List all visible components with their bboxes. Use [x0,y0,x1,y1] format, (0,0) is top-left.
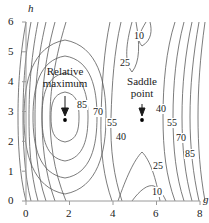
contour-open-left-a [29,22,38,201]
y-tick-label-0: 0 [8,195,14,206]
relative-maximum-label-line1: Relative [47,65,84,77]
saddle-point-annotation: Saddle point [113,76,171,99]
y-axis-ticks [22,22,26,201]
contour-label-55-right: 55 [166,118,178,128]
contour-label-40-right: 40 [155,104,167,114]
contour-plot-canvas [0,0,209,223]
x-tick-label-2: 2 [66,208,72,219]
saddle-point-arrow-head [139,108,145,116]
relative-maximum-arrow-head [62,108,69,116]
contour-label-55-left: 55 [106,118,118,128]
saddle-point-label-line2: point [131,87,154,99]
y-tick-label-2: 2 [8,136,14,147]
y-axis-name: h [28,3,34,14]
x-tick-label-8: 8 [197,208,203,219]
relative-maximum-label-line2: maximum [43,77,88,89]
contour-label-10-bottom: 10 [151,187,163,197]
critical-point-markers [63,118,144,122]
contour-label-10-top: 10 [133,31,145,41]
contour-open-left-b [35,22,46,201]
contour-saddle-left-mid [111,22,122,201]
x-tick-label-6: 6 [153,208,159,219]
contour-label-85-right: 85 [184,149,196,159]
relative-maximum-annotation: Relative maximum [30,66,100,89]
y-tick-label-6: 6 [8,16,14,27]
x-axis-name: g [203,194,209,205]
contour-open-right-edge [198,22,205,201]
y-tick-label-1: 1 [8,166,14,177]
saddle-point-label-line1: Saddle [127,75,157,87]
x-tick-label-0: 0 [23,208,29,219]
contour-label-25-top: 25 [119,58,131,68]
contour-label-40-left: 40 [115,132,127,142]
y-tick-label-3: 3 [8,106,14,117]
y-tick-label-4: 4 [8,76,14,87]
saddle-point-marker [140,118,144,122]
contour-label-85-left: 85 [76,100,88,110]
contour-label-70-right: 70 [175,133,187,143]
relative-maximum-marker [63,118,67,122]
contour-label-25-bottom: 25 [152,161,164,171]
contour-level-70-right [182,22,192,201]
x-axis-ticks [26,201,200,205]
y-tick-label-5: 5 [8,46,14,57]
contour-plot-figure: 6 5 4 3 2 1 0 0 2 4 6 8 h g 10 25 85 70 … [0,0,209,223]
contour-label-70-left: 70 [92,107,104,117]
contour-curves [18,22,205,201]
x-tick-label-4: 4 [110,208,116,219]
